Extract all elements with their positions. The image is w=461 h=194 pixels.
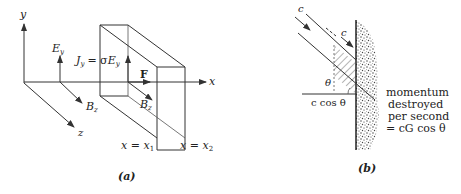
theta-arc — [348, 88, 350, 94]
panel-b: c c θ c cos θ momentum destroyed per sec… — [295, 3, 450, 175]
x1-label: x = x1 — [121, 139, 154, 153]
panel-a: y x z Ey Bz — [19, 8, 216, 183]
force-label: F — [140, 68, 148, 81]
b-field-label-slab: Bz — [139, 98, 152, 112]
b-field-arrow — [60, 82, 82, 103]
absorbing-wall — [356, 20, 379, 150]
current-density-label: Jy= σEy — [74, 54, 121, 68]
ray-upper — [306, 14, 356, 60]
z-axis-label: z — [77, 127, 84, 138]
figure: y x z Ey Bz — [0, 0, 461, 194]
conducting-slab — [100, 25, 185, 150]
svg-text:= cG cos θ: = cG cos θ — [386, 122, 446, 135]
x2-label: x = x2 — [180, 139, 213, 153]
z-axis — [24, 83, 74, 127]
theta-label: θ — [325, 77, 331, 88]
panel-b-caption: (b) — [358, 162, 376, 175]
ray-arrow-along — [341, 37, 353, 47]
c-incident-label: c — [298, 3, 304, 14]
ray-arrow-incident — [295, 17, 310, 30]
b-field-label: Bz — [85, 100, 98, 114]
c-along-label: c — [341, 27, 347, 38]
x-axis-label: x — [209, 75, 216, 88]
momentum-note: momentum destroyed per second = cG cos θ — [386, 86, 450, 135]
c-cos-theta-label: c cos θ — [311, 97, 346, 108]
y-axis-label: y — [19, 8, 27, 21]
e-field-label: Ey — [51, 42, 65, 56]
panel-a-caption: (a) — [118, 170, 136, 183]
hatched-beam-region — [334, 45, 356, 94]
